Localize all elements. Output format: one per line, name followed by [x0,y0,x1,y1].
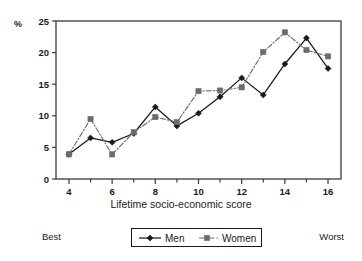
data-point-women [261,49,266,54]
legend-label-women: Women [222,233,256,244]
data-point-women [66,152,71,157]
y-tick-label: 10 [38,110,49,121]
legend-label-men: Men [165,233,184,244]
scale-note-worst: Worst [319,231,344,242]
legend-contents: MenWomen [131,228,262,247]
data-point-women [282,30,287,35]
data-point-women [131,130,136,135]
x-axis-label: Lifetime socio-economic score [0,198,362,210]
y-axis-ticks: 0510152025 [38,16,56,185]
data-point-women [239,85,244,90]
data-point-women [304,47,309,52]
x-tick-label: 12 [236,186,247,197]
data-point-women [217,88,222,93]
plot-frame [56,21,341,179]
x-tick-label: 10 [193,186,204,197]
data-point-women [325,54,330,59]
x-tick-label: 6 [109,186,114,197]
scale-note-best: Best [42,231,61,242]
x-tick-label: 4 [66,186,72,197]
x-axis-ticks: 46810121416 [66,179,333,197]
data-point-women [174,120,179,125]
chart-figure: % 0510152025 46810121416 Lifetime socio-… [0,0,362,261]
y-tick-label: 0 [44,174,49,185]
x-tick-label: 14 [280,186,291,197]
y-tick-label: 25 [38,16,49,27]
legend-marker-men [147,235,153,241]
x-tick-label: 8 [153,186,158,197]
y-tick-label: 15 [38,79,49,90]
x-tick-label: 16 [323,186,334,197]
data-point-women [196,89,201,94]
data-point-women [153,114,158,119]
data-point-women [88,116,93,121]
y-tick-label: 20 [38,47,49,58]
data-point-women [110,152,115,157]
legend-marker-women [204,235,209,240]
y-tick-label: 5 [44,142,50,153]
line-chart-plot: 0510152025 46810121416 [0,0,362,261]
